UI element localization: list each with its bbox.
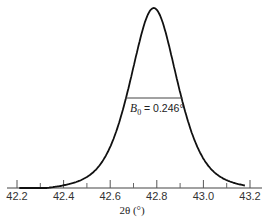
x-axis-title: 2θ (°)	[119, 204, 145, 217]
diffraction-peak-chart: 42.242.442.642.843.043.2 2θ (°) B0 = 0.2…	[0, 0, 270, 219]
x-axis-tick-labels: 42.242.442.642.843.043.2	[6, 190, 260, 202]
x-tick-label: 43.0	[193, 190, 214, 202]
x-tick-label: 42.6	[99, 190, 120, 202]
x-tick-label: 42.4	[53, 190, 74, 202]
x-axis: 42.242.442.642.843.043.2 2θ (°)	[6, 180, 262, 217]
fwhm-annotation: B0 = 0.246°	[130, 102, 183, 117]
x-tick-label: 42.8	[146, 190, 167, 202]
x-tick-label: 42.2	[6, 190, 27, 202]
x-tick-label: 43.2	[239, 190, 260, 202]
